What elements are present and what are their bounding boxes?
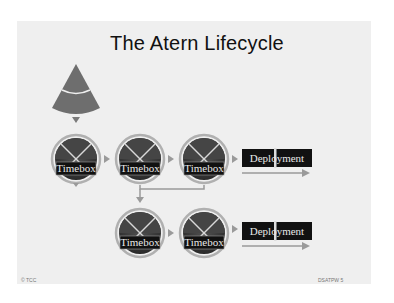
- arrow-right-icon: [302, 242, 310, 250]
- svg-text:Timebox: Timebox: [56, 162, 96, 174]
- timebox-4: [116, 209, 164, 257]
- deployment-label-1: Deployment: [250, 152, 304, 164]
- timebox-label-3: Timebox: [184, 162, 224, 175]
- arrow-right-icon: [104, 155, 110, 163]
- timebox-label-4: Timebox: [120, 236, 160, 249]
- arrow-right-icon: [302, 169, 310, 177]
- svg-text:Timebox: Timebox: [120, 236, 160, 248]
- timebox-label-2: Timebox: [120, 162, 160, 175]
- arrow-right-icon: [232, 155, 238, 163]
- timebox-1: [52, 135, 100, 183]
- timebox-3: [180, 135, 228, 183]
- lifecycle-diagram: Timebox Timebox Timebox Timebox Timebox …: [0, 0, 394, 303]
- arrow-right-icon: [168, 229, 174, 237]
- down-arrow-icon: [72, 117, 80, 123]
- arrow-right-icon: [232, 225, 238, 233]
- timebox-2: [116, 135, 164, 183]
- arrow-right-icon: [168, 155, 174, 163]
- svg-text:Timebox: Timebox: [184, 162, 224, 174]
- timebox-label-1: Timebox: [56, 162, 96, 175]
- down-arrow-icon: [136, 197, 144, 203]
- timebox-5: [180, 209, 228, 257]
- svg-text:Timebox: Timebox: [184, 236, 224, 248]
- deployment-label-2: Deployment: [250, 225, 304, 237]
- footer-page-id: DSATPW 5: [318, 277, 343, 283]
- footer-copyright: © TCC: [21, 277, 36, 283]
- pre-project-shape: [52, 64, 100, 123]
- svg-text:Timebox: Timebox: [120, 162, 160, 174]
- timebox-label-5: Timebox: [184, 236, 224, 249]
